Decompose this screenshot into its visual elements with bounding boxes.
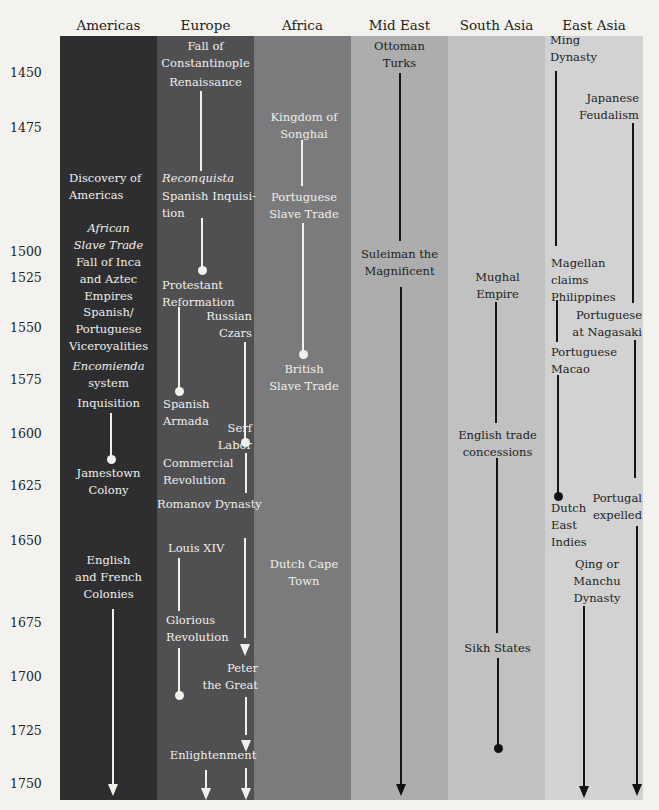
event-discovery-of-americas: Discovery of Americas xyxy=(69,170,141,204)
event-african-slave-trade: African Slave Trade xyxy=(60,220,157,254)
column-americas xyxy=(60,36,157,800)
year-label: 1500 xyxy=(10,245,50,259)
timeline-bar xyxy=(110,413,112,458)
timeline-bar xyxy=(583,606,585,786)
event-magellan-philippines: Magellan claims Philippines xyxy=(551,255,616,306)
timeline-bar xyxy=(555,71,557,246)
end-dot-icon xyxy=(175,691,184,700)
end-dot-icon xyxy=(198,266,207,275)
arrow-down-icon xyxy=(632,784,642,796)
event-fall-of-constantinople: Fall of Constantinople xyxy=(157,38,254,72)
event-british-slave-trade: British Slave Trade xyxy=(254,361,354,395)
year-label: 1475 xyxy=(10,121,50,135)
year-label: 1550 xyxy=(10,321,50,335)
column-east-asia xyxy=(545,36,643,800)
arrow-down-icon xyxy=(108,784,118,796)
event-louis-xiv: Louis XIV xyxy=(168,540,224,557)
end-dot-icon xyxy=(107,455,116,464)
year-label: 1750 xyxy=(10,777,50,791)
arrow-down-icon xyxy=(241,788,251,800)
event-spanish-inquisition: Spanish Inquisi- tion xyxy=(162,188,256,222)
timeline-bar xyxy=(201,218,203,268)
column-header-mid-east: Mid East xyxy=(351,16,448,34)
timeline-bar xyxy=(178,307,180,391)
timeline-bar xyxy=(495,302,497,423)
event-glorious-revolution: Glorious Revolution xyxy=(166,612,229,646)
column-header-americas: Americas xyxy=(60,16,157,34)
arrow-down-icon xyxy=(579,786,589,798)
event-portuguese-at-nagasaki: Portuguese at Nagasaki xyxy=(570,307,642,341)
year-label: 1725 xyxy=(10,724,50,738)
timeline-bar xyxy=(496,458,498,633)
event-ottoman-turks: Ottoman Turks xyxy=(351,38,448,72)
timeline-bar xyxy=(178,558,180,611)
timeline-bar xyxy=(400,287,402,784)
year-label: 1675 xyxy=(10,616,50,630)
event-viceroyalities: Spanish/ Portuguese Viceroyalities xyxy=(60,304,157,355)
timeline-bar xyxy=(244,538,246,638)
event-enlightenment: Enlightenment xyxy=(168,747,258,764)
event-sikh-states: Sikh States xyxy=(448,640,547,657)
event-english-french-colonies: English and French Colonies xyxy=(60,552,157,603)
year-label: 1600 xyxy=(10,427,50,441)
event-fall-inca-aztec: Fall of Inca and Aztec Empires xyxy=(60,254,157,305)
timeline-bar xyxy=(200,91,202,171)
end-dot-icon xyxy=(175,387,184,396)
event-renaissance: Renaissance xyxy=(157,74,254,91)
timeline-bar xyxy=(302,223,304,353)
event-japanese-feudalism: Japanese Feudalism xyxy=(570,90,639,124)
event-portuguese-macao: Portuguese Macao xyxy=(551,344,617,378)
event-encomienda: Encomienda xyxy=(60,358,157,375)
column-header-africa: Africa xyxy=(254,16,351,34)
year-label: 1525 xyxy=(10,271,50,285)
timeline-bar xyxy=(556,300,558,342)
event-mughal-empire: Mughal Empire xyxy=(448,269,547,303)
arrow-down-icon xyxy=(396,784,406,796)
arrow-down-icon xyxy=(240,644,250,656)
timeline-bar xyxy=(245,697,247,735)
timeline-bar xyxy=(399,73,401,241)
event-reconquista: Reconquista xyxy=(162,170,234,187)
event-protestant-reformation: Protestant Reformation xyxy=(162,277,235,311)
year-label: 1700 xyxy=(10,670,50,684)
event-jamestown: Jamestown Colony xyxy=(60,465,157,499)
event-dutch-east-indies: Dutch East Indies xyxy=(551,500,587,551)
timeline-bar xyxy=(245,453,247,493)
event-encomienda-system: system xyxy=(60,375,157,392)
end-dot-icon xyxy=(299,350,308,359)
timeline-bar xyxy=(632,123,634,303)
column-header-europe: Europe xyxy=(157,16,254,34)
event-ming-dynasty: Ming Dynasty xyxy=(550,32,597,66)
timeline-bar xyxy=(205,770,207,788)
event-english-trade-concessions: English trade concessions xyxy=(448,427,547,461)
event-serf-labor: Serf Labor xyxy=(200,420,252,454)
year-label: 1650 xyxy=(10,534,50,548)
timeline-bar xyxy=(112,609,114,784)
event-portugal-expelled: Portugal expelled xyxy=(590,490,642,524)
year-label: 1625 xyxy=(10,479,50,493)
timeline-bar xyxy=(634,340,636,478)
event-portuguese-slave-trade: Portuguese Slave Trade xyxy=(254,189,354,223)
event-kingdom-of-songhai: Kingdom of Songhai xyxy=(254,109,354,143)
event-qing-manchu-dynasty: Qing or Manchu Dynasty xyxy=(555,556,639,607)
event-inquisition: Inquisition xyxy=(60,395,157,412)
event-suleiman: Suleiman the Magnificent xyxy=(348,246,451,280)
timeline-bar xyxy=(245,768,247,788)
timeline-bar xyxy=(301,140,303,186)
end-dot-icon xyxy=(494,744,503,753)
timeline-bar xyxy=(178,648,180,693)
event-peter-the-great: Peter the Great xyxy=(200,660,258,694)
event-commercial-revolution: Commercial Revolution xyxy=(163,455,234,489)
event-dutch-cape-town: Dutch Cape Town xyxy=(254,556,354,590)
year-label: 1450 xyxy=(10,66,50,80)
column-header-south-asia: South Asia xyxy=(448,16,545,34)
event-romanov-dynasty: Romanov Dynasty xyxy=(157,496,257,513)
year-label: 1575 xyxy=(10,373,50,387)
timeline-bar xyxy=(557,375,559,493)
timeline-bar xyxy=(497,658,499,746)
arrow-down-icon xyxy=(201,788,211,800)
event-russian-czars: Russian Czars xyxy=(190,308,252,342)
